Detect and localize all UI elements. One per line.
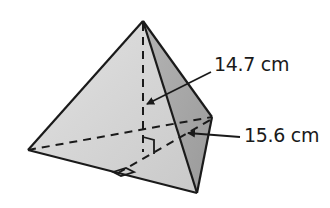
height-label: 14.7 cm (214, 55, 289, 74)
slant-height-label: 15.6 cm (244, 126, 319, 145)
pyramid-diagram (0, 0, 330, 208)
